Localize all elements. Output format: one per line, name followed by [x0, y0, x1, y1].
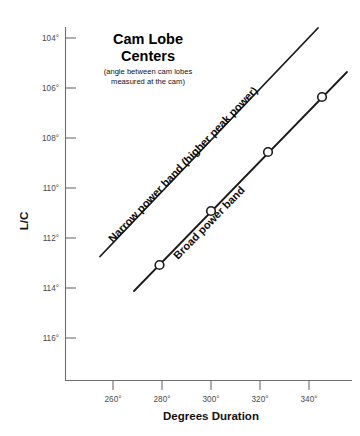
data-point-marker: [155, 261, 164, 270]
chart-subtitle-line1: (angle between cam lobes: [104, 67, 193, 76]
cam-lobe-centers-chart: 104° 106° 108° 110° 112° 114° 116° 260° …: [0, 0, 360, 436]
x-tick-label-300: 300°: [203, 395, 220, 404]
chart-container: 104° 106° 108° 110° 112° 114° 116° 260° …: [0, 0, 360, 436]
data-point-marker: [318, 93, 327, 102]
chart-background: [0, 0, 360, 436]
chart-subtitle-line2: measured at the cam): [111, 77, 185, 86]
y-tick-label-110: 110°: [43, 184, 59, 193]
data-point-marker: [207, 207, 216, 216]
y-tick-label-112: 112°: [43, 234, 59, 243]
y-tick-label-116: 116°: [43, 334, 59, 343]
y-tick-label-114: 114°: [43, 284, 59, 293]
y-tick-label-106: 106°: [42, 84, 59, 93]
y-axis-title: L/C: [18, 212, 30, 231]
y-tick-label-104: 104°: [42, 34, 59, 43]
x-tick-label-320: 320°: [252, 395, 269, 404]
x-tick-label-260: 260°: [105, 395, 122, 404]
x-tick-label-340: 340°: [301, 395, 318, 404]
chart-title-line1: Cam Lobe: [113, 31, 183, 47]
y-tick-label-108: 108°: [42, 134, 59, 143]
x-axis-title: Degrees Duration: [163, 410, 259, 422]
data-point-marker: [264, 148, 273, 157]
chart-title-line2: Centers: [121, 48, 175, 64]
x-tick-label-280: 280°: [154, 395, 171, 404]
